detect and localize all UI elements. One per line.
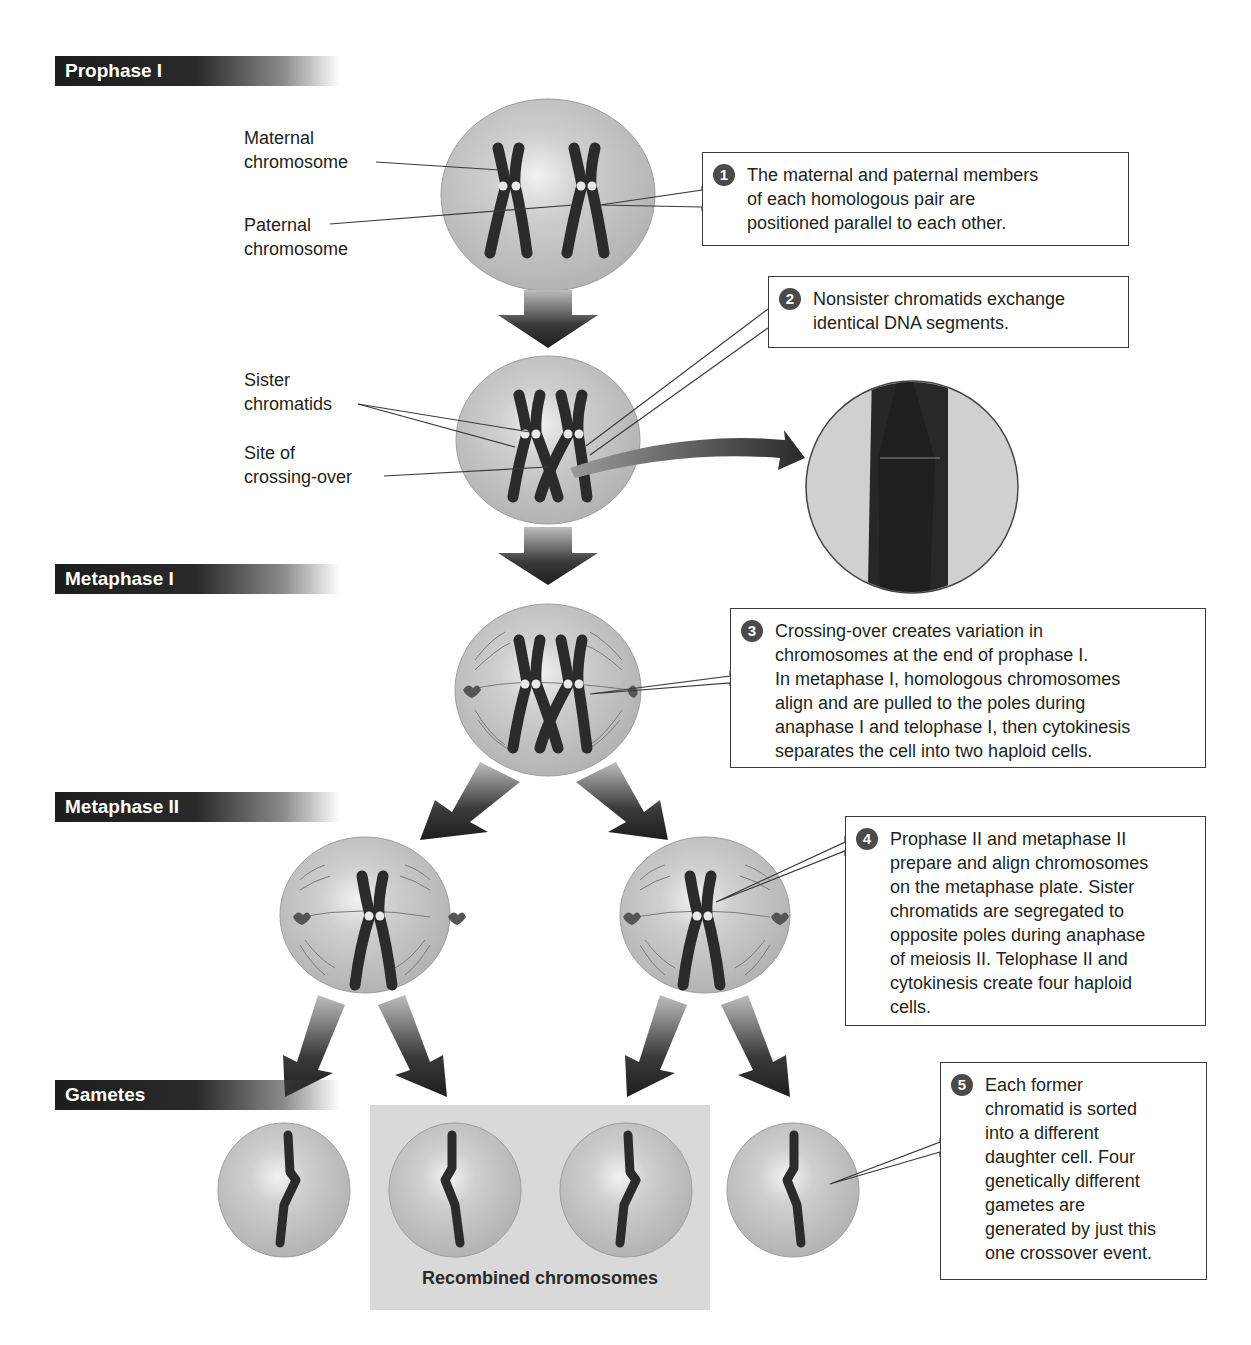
- callout-text-line: daughter cell. Four: [985, 1145, 1194, 1169]
- callout-text-line: opposite poles during anaphase: [890, 923, 1193, 947]
- gamete-2-recombined: [389, 1123, 521, 1257]
- callout-text-line: cells.: [890, 995, 1193, 1019]
- callout-text-line: chromosomes at the end of prophase I.: [775, 643, 1193, 667]
- callout-text-line: genetically different: [985, 1169, 1194, 1193]
- callout-text-line: cytokinesis create four haploid: [890, 971, 1193, 995]
- crossover-magnified-inset: [806, 370, 1018, 596]
- callout-text-line: generated by just this: [985, 1217, 1194, 1241]
- callout-text-line: In metaphase I, homologous chromosomes: [775, 667, 1193, 691]
- stage-label-gametes: Gametes: [55, 1080, 340, 1110]
- callout-4: 4 Prophase II and metaphase II prepare a…: [845, 816, 1206, 1026]
- label-site-of-crossing-over: Site of crossing-over: [244, 441, 352, 489]
- callout-text-line: identical DNA segments.: [813, 311, 1116, 335]
- callout-text-line: prepare and align chromosomes: [890, 851, 1193, 875]
- cell-prophase-homologs: [433, 93, 663, 297]
- stage-label-metaphase-1: Metaphase I: [55, 564, 340, 594]
- callout-text-line: gametes are: [985, 1193, 1194, 1217]
- step-number-badge: 4: [856, 828, 878, 850]
- callout-text-line: Prophase II and metaphase II: [890, 827, 1193, 851]
- callout-text-line: The maternal and paternal members: [747, 163, 1116, 187]
- callout-text-line: align and are pulled to the poles during: [775, 691, 1193, 715]
- callout-text-line: chromatid is sorted: [985, 1097, 1194, 1121]
- step-number-badge: 1: [713, 164, 735, 186]
- label-line: chromosome: [244, 150, 348, 174]
- arrow-down-2: [498, 527, 598, 585]
- callout-text-line: of each homologous pair are: [747, 187, 1116, 211]
- label-line: Site of: [244, 441, 352, 465]
- label-paternal-chromosome: Paternal chromosome: [244, 213, 348, 261]
- arrow-split-left: [420, 762, 520, 840]
- callout-text-line: on the metaphase plate. Sister: [890, 875, 1193, 899]
- callout-text-line: Each former: [985, 1073, 1194, 1097]
- callout-text-line: into a different: [985, 1121, 1194, 1145]
- cell-prophase-crossing: [448, 350, 648, 530]
- step-number-badge: 3: [741, 620, 763, 642]
- label-sister-chromatids: Sister chromatids: [244, 368, 332, 416]
- recombined-chromosomes-label: Recombined chromosomes: [370, 1268, 710, 1289]
- label-line: chromosome: [244, 237, 348, 261]
- label-line: crossing-over: [244, 465, 352, 489]
- callout-text-line: Nonsister chromatids exchange: [813, 287, 1116, 311]
- arrows-to-gametes: [283, 995, 790, 1097]
- callout-text-line: positioned parallel to each other.: [747, 211, 1116, 235]
- callout-text-line: one crossover event.: [985, 1241, 1194, 1265]
- arrow-split-right: [576, 762, 668, 840]
- callout-3: 3 Crossing-over creates variation in chr…: [730, 608, 1206, 768]
- stage-label-metaphase-2: Metaphase II: [55, 792, 340, 822]
- cell-metaphase-2-left: [273, 830, 466, 1000]
- arrow-down-1: [498, 290, 598, 348]
- gamete-3-recombined: [560, 1123, 692, 1257]
- step-number-badge: 5: [951, 1074, 973, 1096]
- cell-metaphase-2-right: [613, 830, 797, 1000]
- callout-1: 1 The maternal and paternal members of e…: [702, 152, 1129, 246]
- label-line: Sister: [244, 368, 332, 392]
- step-number-badge: 2: [779, 288, 801, 310]
- callout-text-line: separates the cell into two haploid cell…: [775, 739, 1193, 763]
- label-line: Paternal: [244, 213, 348, 237]
- callout-2: 2 Nonsister chromatids exchange identica…: [768, 276, 1129, 348]
- gamete-4: [721, 1117, 865, 1263]
- label-line: chromatids: [244, 392, 332, 416]
- callout-text-line: anaphase I and telophase I, then cytokin…: [775, 715, 1193, 739]
- stage-label-prophase-1: Prophase I: [55, 56, 340, 86]
- gamete-1: [212, 1117, 356, 1263]
- callout-text-line: Crossing-over creates variation in: [775, 619, 1193, 643]
- callout-5: 5 Each former chromatid is sorted into a…: [940, 1062, 1207, 1280]
- label-line: Maternal: [244, 126, 348, 150]
- label-maternal-chromosome: Maternal chromosome: [244, 126, 348, 174]
- callout-text-line: chromatids are segregated to: [890, 899, 1193, 923]
- callout-text-line: of meiosis II. Telophase II and: [890, 947, 1193, 971]
